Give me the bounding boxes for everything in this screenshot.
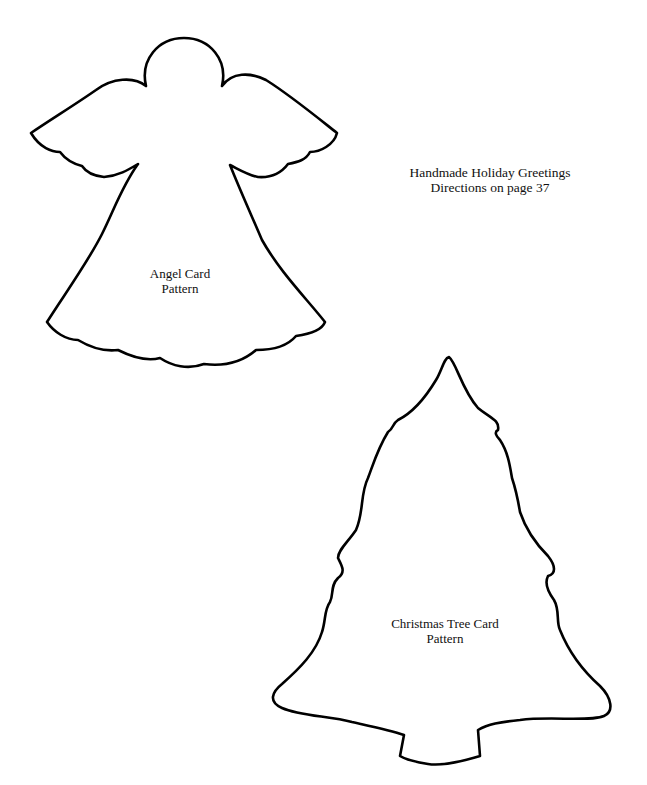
tree-pattern-label: Christmas Tree Card Pattern: [360, 616, 530, 646]
tree-label-line1: Christmas Tree Card: [360, 616, 530, 631]
page-heading: Handmade Holiday Greetings Directions on…: [380, 165, 600, 195]
angel-label-line2: Pattern: [120, 281, 240, 296]
pattern-page: Handmade Holiday Greetings Directions on…: [0, 0, 647, 785]
angel-outline: [31, 38, 337, 367]
angel-pattern-label: Angel Card Pattern: [120, 266, 240, 296]
angel-label-line1: Angel Card: [120, 266, 240, 281]
heading-title: Handmade Holiday Greetings: [380, 165, 600, 180]
heading-subtitle: Directions on page 37: [380, 180, 600, 195]
pattern-outlines: [0, 0, 647, 785]
tree-outline: [273, 357, 610, 765]
tree-label-line2: Pattern: [360, 631, 530, 646]
